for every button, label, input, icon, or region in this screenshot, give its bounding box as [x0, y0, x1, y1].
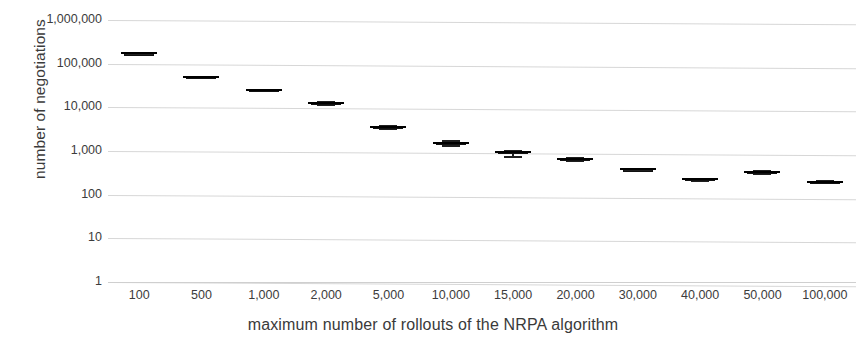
median-line [433, 142, 469, 144]
y-tick-label: 100,000 [12, 56, 102, 70]
median-line [744, 171, 780, 173]
median-line [557, 158, 593, 160]
box-plot-2000 [295, 20, 357, 282]
median-line [246, 89, 282, 91]
x-tick-label: 30,000 [619, 288, 657, 302]
median-line [807, 181, 843, 183]
box-plot-chart: number of negotiations 1,000,000100,0001… [0, 0, 866, 359]
x-tick-label: 5,000 [373, 288, 404, 302]
x-tick-label: 50,000 [743, 288, 781, 302]
whisker-cap-lower [442, 145, 460, 146]
x-tick-label: 100 [129, 288, 150, 302]
box-plot-500 [170, 20, 232, 282]
box-plot-100 [108, 20, 170, 282]
y-tick-label: 1 [12, 274, 102, 288]
box-plot-1000 [233, 20, 295, 282]
median-line [308, 102, 344, 104]
x-tick-label: 2,000 [311, 288, 342, 302]
y-tick-label: 10,000 [12, 99, 102, 113]
x-tick-label: 100,000 [802, 288, 847, 302]
median-line [495, 151, 531, 153]
plot-area: 1,000,000100,00010,0001,000100101 [108, 20, 856, 282]
y-tick-label: 100 [12, 187, 102, 201]
x-axis-title: maximum number of rollouts of the NRPA a… [0, 316, 866, 334]
box-plot-10000 [420, 20, 482, 282]
box-plot-50000 [731, 20, 793, 282]
box-plot-30000 [607, 20, 669, 282]
median-line [620, 168, 656, 170]
whisker-cap-lower [504, 156, 522, 157]
x-tick-label: 20,000 [556, 288, 594, 302]
box-plot-100000 [794, 20, 856, 282]
y-tick-label: 1,000,000 [12, 12, 102, 26]
median-line [370, 126, 406, 128]
y-tick-label: 1,000 [12, 143, 102, 157]
box-plot-20000 [544, 20, 606, 282]
x-tick-label: 500 [191, 288, 212, 302]
x-tick-label: 10,000 [432, 288, 470, 302]
y-tick-label: 10 [12, 230, 102, 244]
x-axis-line [108, 282, 856, 283]
box-plot-5000 [357, 20, 419, 282]
x-tick-label: 15,000 [494, 288, 532, 302]
x-tick-label: 1,000 [248, 288, 279, 302]
whisker-cap-lower [566, 161, 584, 162]
box-plot-40000 [669, 20, 731, 282]
median-line [121, 52, 157, 54]
median-line [682, 178, 718, 180]
x-tick-label: 40,000 [681, 288, 719, 302]
median-line [183, 76, 219, 78]
box-plot-15000 [482, 20, 544, 282]
